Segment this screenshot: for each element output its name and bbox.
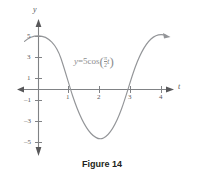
y-tick-label-3: 3: [27, 54, 31, 61]
x-tick-label-3: 3: [128, 94, 132, 101]
equation-numerator: π: [104, 55, 107, 61]
x-tick-label-4: 4: [159, 94, 163, 101]
figure-caption: Figure 14: [0, 160, 204, 169]
x-tick-label-2: 2: [97, 94, 101, 101]
y-tick-label-1: 1: [27, 75, 31, 82]
curve-end-arrowhead: [163, 33, 171, 39]
equation-function: cos: [88, 56, 100, 66]
y-axis-bottom-arrowhead: [36, 147, 42, 156]
y-tick-label-neg3: –3: [24, 118, 31, 125]
equation-fraction: π2: [104, 55, 107, 69]
cosine-curve: [25, 33, 171, 139]
x-axis-left-arrowhead: [17, 87, 24, 93]
coordinate-plot: [0, 0, 204, 181]
y-axis-label: y: [33, 6, 37, 14]
x-tick-label-1: 1: [66, 94, 70, 101]
y-axis: [36, 19, 42, 156]
equation-close-paren: ): [109, 55, 113, 68]
equation-annotation: y=5cos(π2t): [74, 55, 114, 69]
y-tick-label-neg1: –1: [24, 97, 31, 104]
x-axis-label: t: [178, 83, 180, 91]
x-axis: [17, 86, 174, 92]
y-axis-top-arrowhead: [36, 19, 42, 27]
y-tick-label-5: 5: [27, 33, 31, 40]
figure-container: 5 3 1 –1 –3 –5 1 2 3 4 y t y=5cos(π2t) F…: [0, 0, 204, 181]
x-axis-right-arrowhead: [166, 86, 174, 92]
y-tick-label-neg5: –5: [24, 139, 31, 146]
equation-denominator: 2: [104, 61, 107, 68]
